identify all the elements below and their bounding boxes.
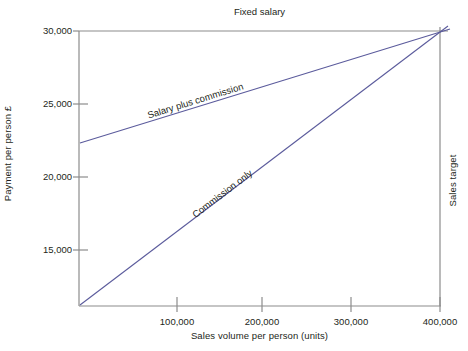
right-axis-title: Sales target xyxy=(444,60,462,300)
y-tick-label-20000: 20,000 xyxy=(14,171,72,182)
right-axis-title-text: Sales target xyxy=(448,154,459,206)
x-axis-title: Sales volume per person (units) xyxy=(79,330,440,341)
x-tick-label-400000: 400,000 xyxy=(405,316,468,327)
y-axis-title: Payment per person £ xyxy=(0,0,16,306)
y-axis-title-text: Payment per person £ xyxy=(3,105,14,200)
y-tick-label-30000: 30,000 xyxy=(14,25,72,36)
x-tick-label-300000: 300,000 xyxy=(316,316,386,327)
x-tick-label-200000: 200,000 xyxy=(227,316,297,327)
x-tick-label-100000: 100,000 xyxy=(142,316,212,327)
chart-title: Fixed salary xyxy=(79,6,440,17)
series-line-salary-plus-commission xyxy=(80,29,450,143)
y-tick-label-25000: 25,000 xyxy=(14,98,72,109)
y-tick-label-15000: 15,000 xyxy=(14,244,72,255)
chart-container: Fixed salary Payment per person £ Sales … xyxy=(0,0,468,351)
series-line-commission-only xyxy=(80,26,448,305)
